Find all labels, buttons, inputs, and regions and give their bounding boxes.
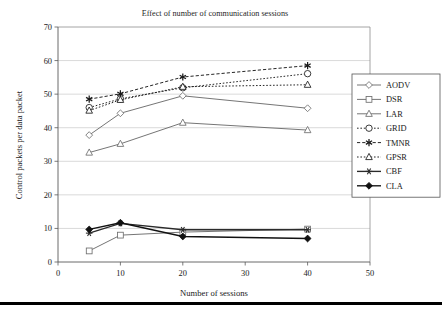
- x-tick-label: 10: [116, 269, 124, 278]
- y-tick-label: 10: [44, 224, 52, 233]
- legend-label: GPSR: [386, 153, 407, 162]
- y-tick-label: 20: [44, 191, 52, 200]
- y-tick-label: 70: [44, 23, 52, 32]
- data-point-marker: [86, 248, 92, 254]
- x-tick-label: 0: [56, 269, 60, 278]
- data-point-marker: [366, 125, 372, 131]
- y-tick-label: 60: [44, 57, 52, 66]
- legend-label: CLA: [386, 182, 403, 191]
- legend-label: DSR: [386, 95, 403, 104]
- y-tick-label: 30: [44, 157, 52, 166]
- y-tick-label: 0: [48, 258, 52, 267]
- data-point-marker: [304, 70, 310, 76]
- x-tick-label: 40: [303, 269, 311, 278]
- bottom-rule: [0, 302, 442, 305]
- x-tick-label: 50: [366, 269, 374, 278]
- chart-legend: AODVDSRLARGRIDTMNRGPSRCBFCLA: [352, 74, 440, 197]
- data-point-marker: [118, 232, 124, 238]
- y-tick-label: 40: [44, 124, 52, 133]
- x-tick-label: 30: [241, 269, 249, 278]
- y-axis-label: Control packets per data packet: [14, 90, 24, 199]
- chart-figure: Effect of number of communication sessio…: [0, 0, 442, 310]
- legend-label: TMNR: [386, 139, 411, 148]
- x-axis-label: Number of sessions: [180, 288, 248, 298]
- legend-label: AODV: [386, 81, 410, 90]
- legend-label: CBF: [386, 167, 402, 176]
- y-tick-label: 50: [44, 90, 52, 99]
- chart-title: Effect of number of communication sessio…: [142, 9, 289, 18]
- legend-label: GRID: [386, 124, 406, 133]
- data-point-marker: [366, 97, 372, 103]
- legend-label: LAR: [386, 110, 403, 119]
- x-tick-label: 20: [179, 269, 187, 278]
